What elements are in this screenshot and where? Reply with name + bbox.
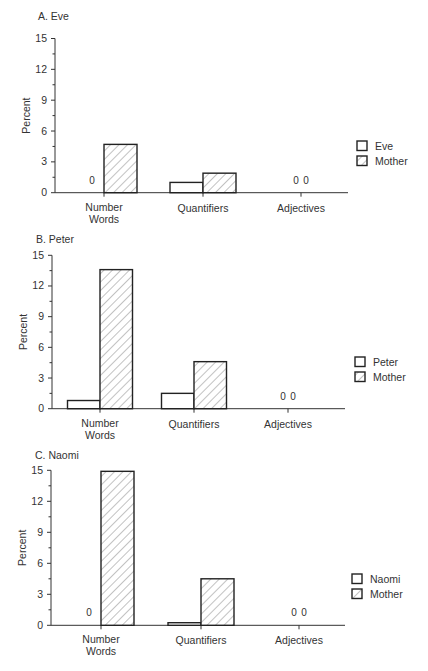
category-label: Number xyxy=(82,633,120,645)
y-tick-label: 3 xyxy=(37,588,43,600)
y-tick-label: 12 xyxy=(35,63,47,75)
category-label: Quantifiers xyxy=(176,634,227,646)
legend-label: Naomi xyxy=(370,573,400,585)
y-axis-label: Percent xyxy=(16,530,28,566)
y-tick-label: 15 xyxy=(35,32,47,44)
y-tick-label: 15 xyxy=(32,249,44,261)
legend-swatch-hatched xyxy=(352,589,362,599)
y-tick-label: 0 xyxy=(41,186,47,198)
y-tick-label: 0 xyxy=(38,402,44,414)
category-label: Words xyxy=(89,213,119,225)
bar-mother xyxy=(104,144,137,192)
bar-mother xyxy=(101,471,134,625)
category-label: Words xyxy=(86,645,116,657)
bar-mother xyxy=(100,270,133,409)
legend-label: Eve xyxy=(375,140,393,152)
chart-panel-2: C. Naomi03691215PercentNumberWordsQuanti… xyxy=(16,449,403,657)
legend-swatch-open xyxy=(355,357,365,367)
zero-annotation: 0 xyxy=(290,391,296,402)
category-label: Number xyxy=(85,201,123,213)
category-label: Adjectives xyxy=(277,202,325,214)
zero-annotation: 0 xyxy=(303,175,309,186)
y-tick-label: 12 xyxy=(32,279,44,291)
category-label: Quantifiers xyxy=(169,418,220,430)
bar-child xyxy=(162,393,195,408)
legend-label: Mother xyxy=(373,371,406,383)
y-tick-label: 9 xyxy=(37,526,43,538)
legend-swatch-hatched xyxy=(357,156,367,166)
legend-swatch-hatched xyxy=(355,372,365,382)
category-label: Adjectives xyxy=(264,418,312,430)
legend-label: Peter xyxy=(373,356,399,368)
bar-mother xyxy=(203,173,236,193)
zero-annotation: 0 xyxy=(89,175,95,186)
y-tick-label: 6 xyxy=(38,341,44,353)
y-tick-label: 12 xyxy=(31,495,43,507)
panel-title: A. Eve xyxy=(38,10,69,22)
y-tick-label: 3 xyxy=(38,372,44,384)
panel-title: B. Peter xyxy=(36,233,74,245)
zero-annotation: 0 xyxy=(301,607,307,618)
y-tick-label: 9 xyxy=(38,310,44,322)
y-tick-label: 3 xyxy=(41,155,47,167)
legend-label: Mother xyxy=(375,155,408,167)
y-tick-label: 0 xyxy=(37,619,43,631)
bar-mother xyxy=(201,579,234,626)
y-tick-label: 15 xyxy=(31,464,43,476)
panel-title: C. Naomi xyxy=(35,449,79,461)
y-axis-label: Percent xyxy=(20,97,32,133)
zero-annotation: 0 xyxy=(293,175,299,186)
legend: NaomiMother xyxy=(352,573,403,600)
category-label: Quantifiers xyxy=(178,202,229,214)
legend-swatch-open xyxy=(357,141,367,151)
zero-annotation: 0 xyxy=(280,391,286,402)
y-tick-label: 6 xyxy=(41,125,47,137)
legend-label: Mother xyxy=(370,588,403,600)
bar-child xyxy=(168,623,201,626)
legend: EveMother xyxy=(357,140,408,167)
category-label: Adjectives xyxy=(275,634,323,646)
category-label: Number xyxy=(81,417,119,429)
figure: A. Eve03691215PercentNumberWordsQuantifi… xyxy=(0,0,428,671)
legend-swatch-open xyxy=(352,574,362,584)
y-axis-label: Percent xyxy=(17,314,29,350)
chart-panel-0: A. Eve03691215PercentNumberWordsQuantifi… xyxy=(20,10,408,225)
bar-child xyxy=(170,182,203,192)
y-tick-label: 9 xyxy=(41,94,47,106)
zero-annotation: 0 xyxy=(291,607,297,618)
bar-child xyxy=(68,401,101,409)
bar-mother xyxy=(194,362,227,409)
y-tick-label: 6 xyxy=(37,557,43,569)
chart-panel-1: B. Peter03691215PercentNumberWordsQuanti… xyxy=(17,233,406,441)
zero-annotation: 0 xyxy=(86,607,92,618)
category-label: Words xyxy=(85,429,115,441)
legend: PeterMother xyxy=(355,356,406,383)
